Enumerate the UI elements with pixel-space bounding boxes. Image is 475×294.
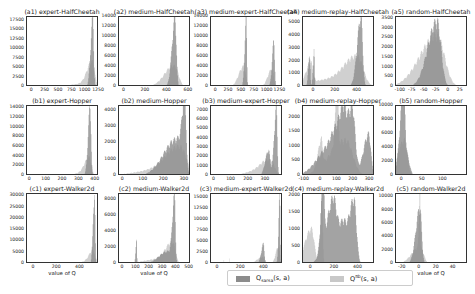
y-tick-label: 4000 — [367, 144, 393, 149]
histogram-sarsa — [396, 18, 467, 86]
plot-area — [395, 16, 467, 86]
histogram-sarsa — [119, 17, 190, 86]
x-tick-label: 0 — [207, 264, 227, 269]
y-tick-label: 2000 — [367, 247, 393, 252]
y-tick-label: 1000 — [274, 226, 300, 231]
y-tick-label: 10000 — [182, 33, 208, 38]
y-tick-label: 1000 — [182, 163, 208, 168]
y-tick-label: 7500 — [182, 227, 208, 232]
y-tick-label: 0 — [182, 260, 208, 265]
histogram-sarsa — [211, 194, 282, 263]
histogram-sarsa — [27, 195, 98, 263]
y-tick-label: 2000 — [367, 44, 393, 49]
plot-area — [26, 16, 98, 86]
y-tick-label: 30000 — [0, 192, 24, 197]
histogram-behavior — [27, 60, 98, 86]
plot-area — [302, 105, 374, 175]
y-tick-label: 3000 — [90, 123, 116, 128]
x-tick-label: 200 — [135, 87, 155, 92]
y-tick-label: 25000 — [0, 204, 24, 209]
y-tick-label: 5000 — [182, 125, 208, 130]
y-tick-label: 4000 — [90, 63, 116, 68]
y-tick-label: 3000 — [367, 25, 393, 30]
y-tick-label: 5000 — [0, 64, 24, 69]
histogram-behavior — [211, 246, 282, 263]
y-tick-label: 10000 — [182, 216, 208, 221]
y-tick-label: 10000 — [367, 102, 393, 107]
y-tick-label: 2000 — [274, 114, 300, 119]
y-tick-label: 500 — [274, 243, 300, 248]
y-tick-label: 4000 — [367, 233, 393, 238]
y-tick-label: 8000 — [0, 133, 24, 138]
legend-swatch-sarsa — [236, 276, 250, 282]
y-tick-label: 8000 — [90, 196, 116, 201]
y-tick-label: 1500 — [367, 54, 393, 59]
panel-title: (a5) random-HalfCheetah — [375, 8, 475, 15]
legend-label-sarsa: Qsarsa(s, a) — [256, 274, 290, 283]
y-tick-label: 15000 — [0, 26, 24, 31]
y-tick-label: 14000 — [90, 13, 116, 18]
y-tick-label: 12500 — [182, 205, 208, 210]
y-tick-label: 2000 — [182, 153, 208, 158]
histogram-behavior — [27, 249, 98, 263]
x-tick-label: 400 — [347, 87, 367, 92]
y-tick-label: 6000 — [367, 130, 393, 135]
histogram-sarsa — [119, 194, 190, 263]
y-tick-label: 0 — [90, 83, 116, 88]
y-tick-label: 8000 — [182, 43, 208, 48]
histogram-sarsa — [211, 17, 282, 86]
y-tick-label: 2500 — [0, 74, 24, 79]
y-tick-label: 5000 — [0, 249, 24, 254]
x-tick-label: 0 — [303, 87, 323, 92]
histogram-sarsa — [119, 106, 190, 175]
panel-title: (c5) random-Walker2d — [375, 185, 475, 192]
y-tick-label: 6000 — [90, 53, 116, 58]
y-tick-label: 6000 — [182, 53, 208, 58]
x-tick-label: 200 — [46, 264, 66, 269]
x-tick-label: 200 — [230, 264, 250, 269]
y-tick-label: 14000 — [182, 13, 208, 18]
y-tick-label: 0 — [367, 260, 393, 265]
legend: Qsarsa(s, a) Qπb(s, a) — [227, 270, 413, 286]
y-tick-label: 4000 — [182, 135, 208, 140]
legend-item-behavior: Qπb(s, a) — [330, 274, 377, 284]
y-tick-label: 20000 — [0, 215, 24, 220]
y-tick-label: 2000 — [0, 162, 24, 167]
plot-area — [302, 193, 374, 263]
y-tick-label: 4000 — [182, 63, 208, 68]
legend-swatch-behavior — [330, 276, 344, 282]
x-tick-label: 200 — [153, 176, 173, 181]
y-tick-label: 2000 — [182, 73, 208, 78]
y-tick-label: 500 — [367, 73, 393, 78]
x-tick-label: 300 — [255, 176, 275, 181]
plot-area — [395, 105, 467, 175]
x-tick-label: 40 — [443, 264, 463, 269]
x-tick-label: 50 — [412, 176, 432, 181]
x-tick-label: 100 — [133, 176, 153, 181]
y-tick-label: 7500 — [0, 55, 24, 60]
y-tick-label: 12000 — [90, 23, 116, 28]
y-tick-label: 1000 — [274, 70, 300, 75]
legend-item-sarsa: Qsarsa(s, a) — [236, 274, 290, 284]
y-tick-label: 0 — [274, 260, 300, 265]
plot-area — [302, 16, 374, 86]
y-tick-label: 3000 — [182, 144, 208, 149]
y-tick-label: 15000 — [0, 226, 24, 231]
y-tick-label: 2500 — [182, 249, 208, 254]
x-tick-label: 0 — [112, 176, 132, 181]
y-tick-label: 5000 — [182, 238, 208, 243]
x-tick-label: 25 — [450, 87, 470, 92]
y-tick-label: 0 — [182, 83, 208, 88]
y-tick-label: 12500 — [0, 36, 24, 41]
histogram-sarsa — [396, 106, 467, 175]
plot-area — [118, 105, 190, 175]
histogram-behavior — [396, 194, 467, 263]
x-tick-label: 400 — [69, 264, 89, 269]
y-tick-label: 7000 — [182, 107, 208, 112]
x-axis-label: value of Q — [26, 270, 98, 276]
plot-area — [395, 193, 467, 263]
y-tick-label: 10000 — [0, 124, 24, 129]
y-tick-label: 6000 — [367, 220, 393, 225]
y-tick-label: 2000 — [274, 192, 300, 197]
y-tick-label: 2000 — [90, 73, 116, 78]
